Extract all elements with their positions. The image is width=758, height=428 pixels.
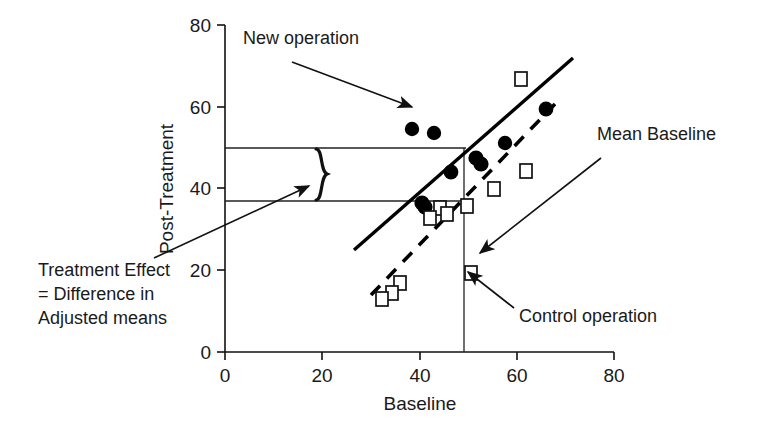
- annotation-treatment-effect: Treatment Effect = Difference in Adjuste…: [38, 260, 170, 328]
- x-axis-tick-labels: 0 20 40 60 80: [220, 365, 625, 386]
- data-point-circle: [427, 126, 441, 140]
- treatment-effect-brace: [316, 149, 327, 200]
- annotation-treatment-effect-line1: Treatment Effect: [38, 260, 170, 280]
- y-tick-label-20: 20: [190, 260, 211, 281]
- x-axis-ticks: [225, 352, 614, 360]
- reference-lines: [225, 148, 466, 352]
- y-axis-title: Post-Treatment: [156, 123, 177, 254]
- y-axis-ticks: [217, 25, 225, 352]
- data-point-square: [461, 199, 473, 213]
- annotation-treatment-effect-line2: = Difference in: [38, 284, 154, 304]
- annotation-control-operation: Control operation: [519, 306, 657, 326]
- y-tick-label-40: 40: [190, 178, 211, 199]
- series-control-operation-points: [376, 72, 532, 306]
- annotation-mean-baseline: Mean Baseline: [597, 124, 716, 144]
- x-tick-label-80: 80: [603, 365, 624, 386]
- scatter-plot-figure: 0 20 40 60 80 0 20 40 60 80 Baseline Pos…: [0, 0, 758, 428]
- data-point-square: [488, 182, 500, 196]
- data-point-square: [520, 164, 532, 178]
- annotation-new-operation-arrow: [292, 62, 412, 107]
- x-tick-label-60: 60: [506, 365, 527, 386]
- y-tick-label-80: 80: [190, 15, 211, 36]
- y-tick-label-60: 60: [190, 97, 211, 118]
- x-tick-label-20: 20: [311, 365, 332, 386]
- annotation-control-operation-arrow: [468, 272, 514, 308]
- data-point-circle: [498, 136, 512, 150]
- annotation-new-operation: New operation: [243, 28, 359, 48]
- data-point-square: [376, 292, 388, 306]
- data-point-circle: [405, 122, 419, 136]
- data-point-circle: [473, 156, 488, 171]
- data-point-square: [515, 72, 527, 86]
- annotation-mean-baseline-arrow: [480, 158, 601, 253]
- data-point-circle: [539, 102, 554, 117]
- x-axis-title: Baseline: [384, 393, 457, 414]
- figure-container: 0 20 40 60 80 0 20 40 60 80 Baseline Pos…: [0, 0, 758, 428]
- y-axis-tick-labels: 0 20 40 60 80: [190, 15, 211, 363]
- data-point-square: [441, 207, 453, 221]
- data-point-square: [424, 211, 436, 225]
- series-new-operation-points: [405, 102, 554, 215]
- x-tick-label-40: 40: [409, 365, 430, 386]
- annotation-treatment-effect-line3: Adjusted means: [38, 308, 167, 328]
- annotation-treatment-effect-arrow: [154, 186, 309, 258]
- x-tick-label-0: 0: [220, 365, 231, 386]
- y-tick-label-0: 0: [200, 342, 211, 363]
- data-point-circle: [444, 165, 459, 180]
